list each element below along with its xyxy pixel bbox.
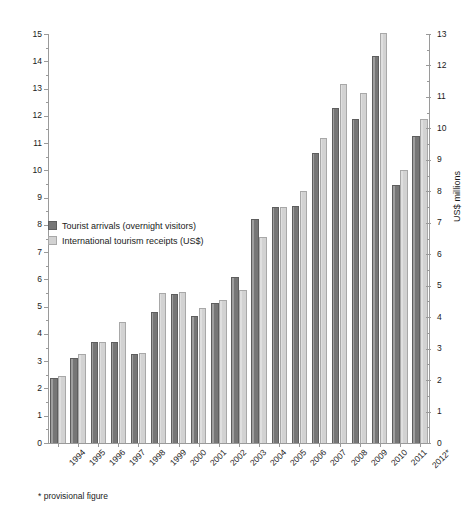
axis-tick	[46, 266, 49, 267]
axis-tick	[427, 144, 430, 145]
x-axis-tick	[279, 443, 280, 447]
y-axis-right-tick-label: 9	[437, 155, 461, 164]
bar-arrivals-2007	[312, 153, 319, 443]
axis-tick	[427, 301, 430, 302]
x-axis-tick	[239, 443, 240, 447]
axis-tick	[44, 170, 49, 171]
axis-tick	[426, 34, 431, 35]
axis-tick	[44, 89, 49, 90]
bar-receipts-2010	[380, 33, 387, 443]
axis-tick	[46, 211, 49, 212]
x-axis-tick-label: 1997	[128, 448, 148, 468]
bar-arrivals-1996	[91, 342, 98, 443]
bar-arrivals-2006	[292, 206, 299, 443]
axis-tick	[427, 50, 430, 51]
axis-tick	[426, 160, 431, 161]
bar-group	[251, 34, 266, 443]
y-axis-left-tick-label: 11	[20, 139, 42, 148]
bar-group	[392, 34, 407, 443]
footnote: * provisional figure	[38, 491, 108, 501]
bar-arrivals-2008	[332, 108, 339, 443]
x-axis-tick	[400, 443, 401, 447]
bar-group	[372, 34, 387, 443]
axis-tick	[44, 34, 49, 35]
y-axis-right-tick-label: 2	[437, 376, 461, 385]
y-axis-left-tick-label: 15	[20, 30, 42, 39]
y-axis-left-tick-label: 13	[20, 84, 42, 93]
x-axis-tick	[259, 443, 260, 447]
bar-receipts-2008	[340, 84, 347, 443]
axis-tick	[46, 320, 49, 321]
axis-tick	[426, 317, 431, 318]
bar-receipts-2006	[300, 191, 307, 443]
axis-tick	[427, 396, 430, 397]
y-axis-left-tick-label: 9	[20, 193, 42, 202]
bar-receipts-1994	[58, 376, 65, 443]
axis-tick	[44, 307, 49, 308]
y-axis-left-tick-label: 8	[20, 220, 42, 229]
bar-receipts-1998	[139, 353, 146, 443]
bar-group	[332, 34, 347, 443]
axis-tick	[427, 333, 430, 334]
y-axis-left-tick-label: 5	[20, 302, 42, 311]
axis-tick	[44, 143, 49, 144]
bar-receipts-2001	[199, 308, 206, 443]
axis-tick	[44, 279, 49, 280]
x-axis-tick-label: 2008	[349, 448, 369, 468]
axis-tick	[46, 129, 49, 130]
bar-arrivals-2012	[412, 136, 419, 443]
x-axis-tick-label: 1999	[168, 448, 188, 468]
bar-arrivals-1997	[111, 342, 118, 443]
axis-tick	[426, 65, 431, 66]
legend-label-arrivals: Tourist arrivals (overnight visitors)	[62, 221, 196, 231]
bar-arrivals-2004	[251, 219, 258, 443]
axis-tick	[46, 293, 49, 294]
axis-tick	[46, 48, 49, 49]
bar-arrivals-2010	[372, 56, 379, 443]
y-axis-left-tick-label: 2	[20, 384, 42, 393]
x-axis-tick-label: 1994	[68, 448, 88, 468]
y-axis-left-tick-label: 12	[20, 111, 42, 120]
y-axis-right-tick-label: 1	[437, 407, 461, 416]
bar-group	[231, 34, 246, 443]
bar-arrivals-2011	[392, 185, 399, 443]
y-axis-right-tick-label: 11	[437, 92, 461, 101]
x-axis-tick-label: 2000	[188, 448, 208, 468]
bar-group	[412, 34, 427, 443]
axis-tick	[426, 412, 431, 413]
x-axis-tick	[380, 443, 381, 447]
axis-tick	[44, 416, 49, 417]
axis-tick	[426, 97, 431, 98]
y-axis-right-tick-label: 0	[437, 439, 461, 448]
bar-receipts-1999	[159, 293, 166, 443]
x-axis-tick	[179, 443, 180, 447]
x-axis-tick-label: 2006	[309, 448, 329, 468]
axis-tick	[46, 184, 49, 185]
axis-tick	[46, 348, 49, 349]
bar-arrivals-2001	[191, 316, 198, 443]
bar-receipts-2005	[280, 207, 287, 443]
bar-arrivals-2005	[272, 207, 279, 443]
bar-group	[312, 34, 327, 443]
bar-arrivals-1999	[151, 312, 158, 443]
x-axis-tick-label: 2012*	[430, 448, 452, 470]
y-axis-right-tick-label: 10	[437, 124, 461, 133]
x-axis-tick	[58, 443, 59, 447]
y-axis-right-tick-label: 4	[437, 313, 461, 322]
legend-label-receipts: International tourism receipts (US$)	[62, 236, 204, 246]
legend-swatch-receipts	[48, 236, 57, 245]
bar-receipts-2009	[360, 93, 367, 443]
x-axis-tick-label: 2005	[289, 448, 309, 468]
axis-tick	[427, 113, 430, 114]
axis-tick	[426, 191, 431, 192]
bar-receipts-2003	[239, 290, 246, 443]
y-axis-right-tick-label: 8	[437, 187, 461, 196]
axis-tick	[44, 252, 49, 253]
y-axis-left-tick-label: 10	[20, 166, 42, 175]
axis-tick	[426, 286, 431, 287]
bar-group	[272, 34, 287, 443]
bar-receipts-2012	[420, 119, 427, 443]
bar-arrivals-2002	[211, 303, 218, 443]
bar-receipts-1996	[99, 342, 106, 443]
axis-tick	[426, 349, 431, 350]
